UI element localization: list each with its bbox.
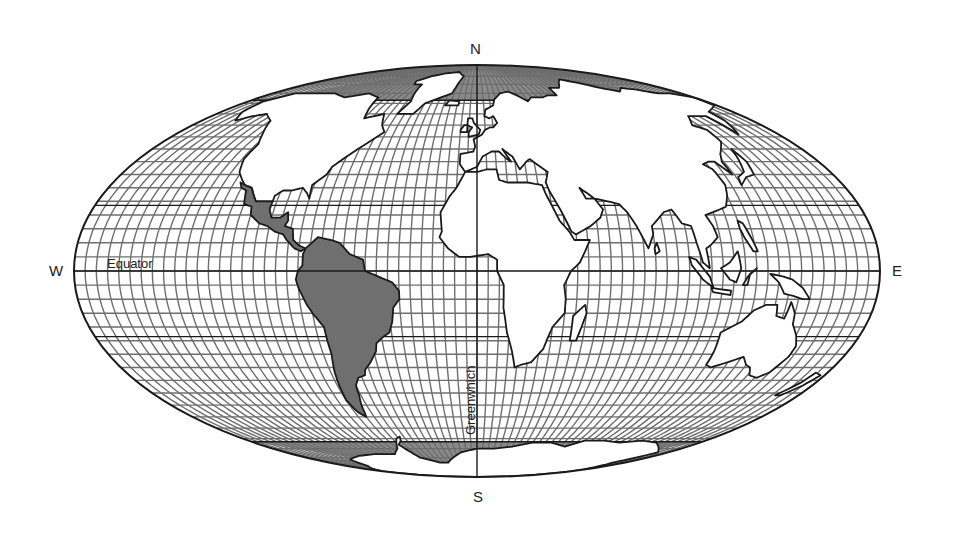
equator-label: Equator: [107, 256, 153, 271]
prime-meridian-label: Greenwhich: [463, 366, 478, 435]
world-map: N S W E Equator Greenwhich: [0, 0, 955, 543]
map-canvas: [0, 0, 955, 543]
compass-south-label: S: [473, 488, 483, 505]
compass-north-label: N: [470, 40, 481, 57]
compass-east-label: E: [892, 262, 902, 279]
compass-west-label: W: [49, 262, 63, 279]
